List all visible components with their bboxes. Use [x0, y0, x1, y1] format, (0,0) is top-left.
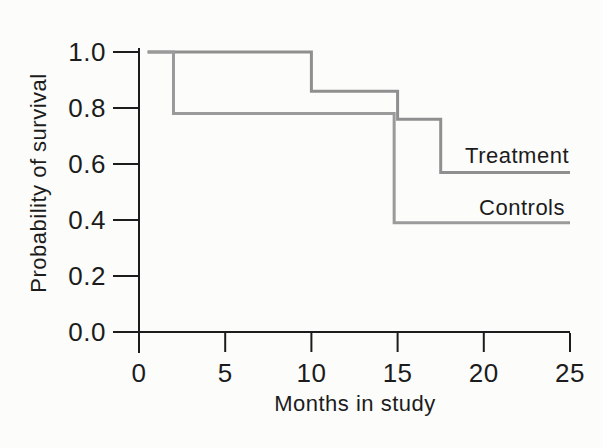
x-tick-label: 15	[383, 358, 413, 388]
y-tick-label: 0.2	[68, 261, 106, 291]
y-tick-label: 1.0	[68, 37, 106, 67]
x-tick-label: 0	[132, 358, 147, 388]
y-tick-label: 0.0	[68, 317, 106, 347]
x-tick-label: 5	[218, 358, 233, 388]
series-label-controls: Controls	[479, 195, 565, 220]
y-axis-title: Probability of survival	[26, 73, 51, 292]
x-axis-title: Months in study	[274, 391, 436, 416]
y-tick-label: 0.8	[68, 93, 106, 123]
x-tick-label: 25	[555, 358, 585, 388]
survival-figure: 0.00.20.40.60.81.00510152025 Months in s…	[0, 0, 603, 448]
x-tick-label: 10	[296, 358, 326, 388]
series-label-treatment: Treatment	[465, 143, 569, 168]
x-tick-label: 20	[469, 358, 499, 388]
y-tick-label: 0.6	[68, 149, 106, 179]
y-tick-label: 0.4	[68, 205, 106, 235]
survival-chart-svg: 0.00.20.40.60.81.00510152025 Months in s…	[0, 0, 603, 448]
